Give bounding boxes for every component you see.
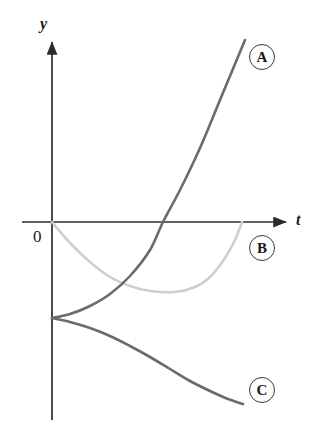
- curve-label-b: B: [249, 235, 275, 261]
- curve-label-c: C: [249, 377, 275, 403]
- curve-c: [52, 318, 243, 404]
- curve-b: [52, 222, 242, 292]
- t-axis-label: t: [296, 212, 300, 228]
- curve-label-a: A: [249, 44, 275, 70]
- plot-canvas: [0, 0, 324, 434]
- graph-figure: y t 0 A B C: [0, 0, 324, 434]
- curve-a: [52, 40, 245, 318]
- origin-label: 0: [33, 228, 42, 245]
- y-axis-label: y: [40, 16, 47, 32]
